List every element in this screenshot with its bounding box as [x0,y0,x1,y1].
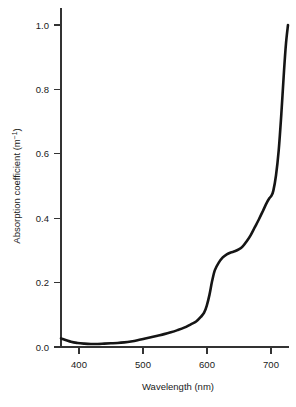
y-tick-label: 0.0 [36,342,49,353]
y-tick-labels: 0.0 0.2 0.4 0.6 0.8 1.0 [36,20,49,353]
x-tick-label: 400 [71,359,87,370]
y-tick-marks [54,25,61,347]
x-tick-label: 600 [199,359,215,370]
absorption-spectrum-chart: 0.0 0.2 0.4 0.6 0.8 1.0 400 500 600 700 … [0,0,296,407]
y-tick-label: 0.2 [36,277,49,288]
data-curve-absorption [61,25,288,344]
x-tick-marks [79,347,271,354]
y-axis-title-suffix: ) [11,128,22,131]
x-tick-label: 700 [263,359,279,370]
y-tick-label: 0.4 [36,213,49,224]
y-axis-title-main: Absorption coefficient (m [11,139,22,243]
y-axis-title: Absorption coefficient (m−1) [11,128,23,243]
chart-figure: 0.0 0.2 0.4 0.6 0.8 1.0 400 500 600 700 … [0,0,296,407]
y-tick-label: 0.6 [36,148,49,159]
x-axis-title: Wavelength (nm) [142,381,214,392]
y-tick-label: 0.8 [36,84,49,95]
x-tick-label: 500 [135,359,151,370]
x-tick-labels: 400 500 600 700 [71,359,279,370]
y-tick-label: 1.0 [36,20,49,31]
